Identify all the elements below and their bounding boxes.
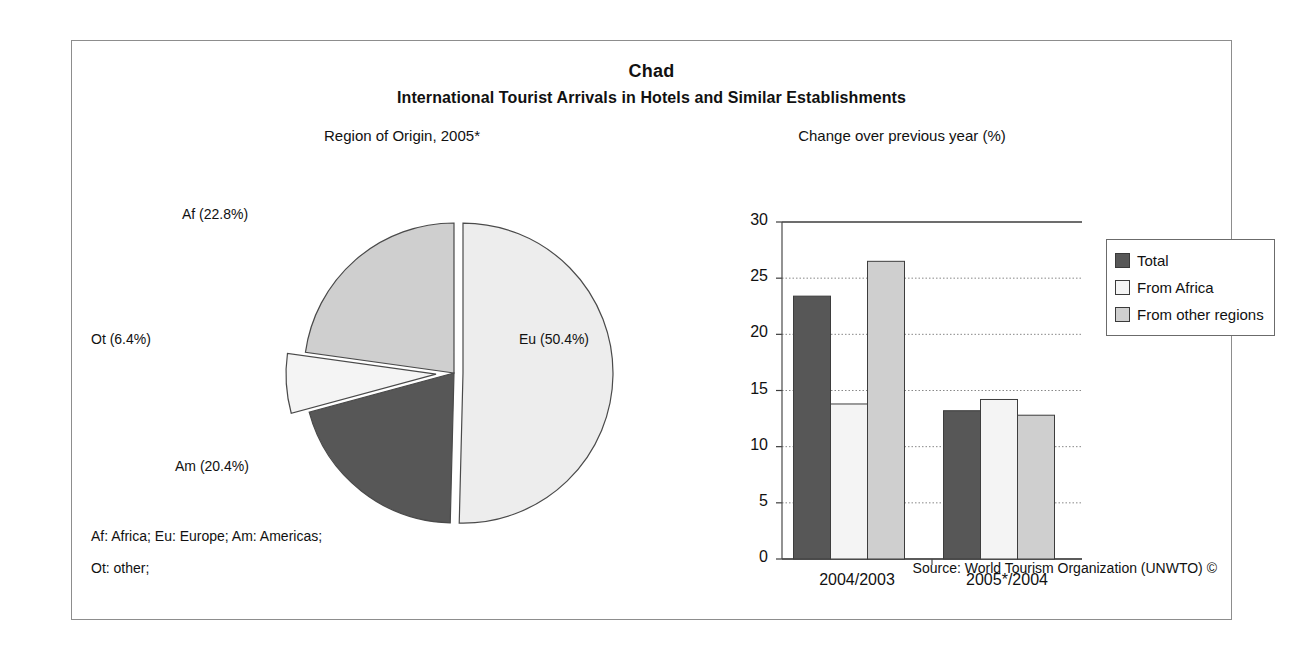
source-note: Source: World Tourism Organization (UNWT… [913,560,1217,576]
x-axis-tick-label: 2004/2003 [782,571,932,589]
bar-chart-caption: Change over previous year (%) [632,127,1172,144]
pie-label-ot: Ot (6.4%) [91,331,151,347]
figure-frame: Chad International Tourist Arrivals in H… [71,40,1232,620]
legend-item: From Africa [1115,274,1264,301]
legend-item: Total [1115,247,1264,274]
y-axis-tick-label: 0 [734,548,768,566]
bar-chart-svg [632,151,1232,581]
y-axis-tick-label: 20 [734,323,768,341]
bar-from-other-regions-20052004 [1018,415,1055,559]
y-axis-tick-label: 15 [734,380,768,398]
bar-from-africa-20042003 [831,404,868,559]
legend-swatch-icon [1115,280,1130,295]
bar-from-africa-20052004 [981,399,1018,559]
bar-total-20042003 [794,296,831,559]
legend-item: From other regions [1115,301,1264,328]
legend-label: Total [1137,252,1169,269]
pie-label-eu: Eu (50.4%) [519,331,589,347]
legend-label: From other regions [1137,306,1264,323]
pie-slice-eu [459,223,613,523]
y-axis-tick-label: 30 [734,211,768,229]
legend-swatch-icon [1115,253,1130,268]
legend-label: From Africa [1137,279,1214,296]
y-axis-tick-label: 25 [734,267,768,285]
bar-total-20052004 [944,411,981,559]
pie-chart-caption: Region of Origin, 2005* [107,127,697,144]
y-axis-tick-label: 10 [734,436,768,454]
footnote-abbreviations-1: Af: Africa; Eu: Europe; Am: Americas; [91,528,322,544]
page-title: Chad [72,61,1231,82]
bar-chart: 051015202530 2004/20032005*/2004 TotalFr… [632,151,1232,581]
legend-swatch-icon [1115,307,1130,322]
pie-slice-af [305,223,454,373]
pie-chart: Af (22.8%) Eu (50.4%) Ot (6.4%) Am (20.4… [72,156,672,536]
bar-chart-legend: TotalFrom AfricaFrom other regions [1106,239,1275,336]
footnote-abbreviations-2: Ot: other; [91,560,149,576]
bar-from-other-regions-20042003 [868,261,905,559]
y-axis-tick-label: 5 [734,492,768,510]
page-subtitle: International Tourist Arrivals in Hotels… [72,89,1231,107]
pie-label-af: Af (22.8%) [182,206,248,222]
pie-label-am: Am (20.4%) [175,458,249,474]
